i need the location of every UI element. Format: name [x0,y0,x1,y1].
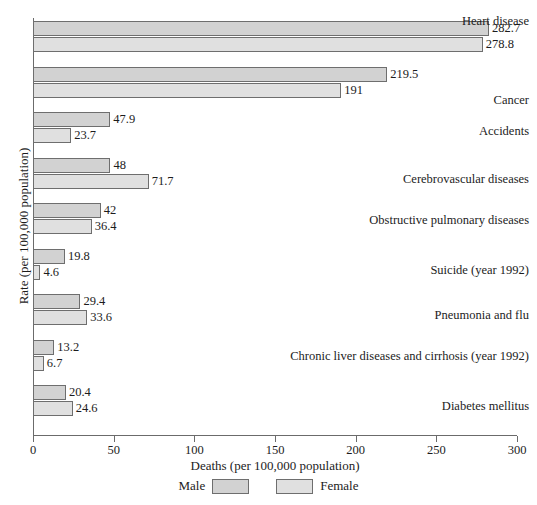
bar-value-label: 24.6 [76,401,98,416]
bar-value-label: 71.7 [152,174,174,189]
category-label: Diabetes mellitus [442,399,529,414]
bar-value-label: 278.8 [486,37,514,52]
bar-chart: 050100150200250300 282.7278.8219.519147.… [0,0,537,505]
category-label: Chronic liver diseases and cirrhosis (ye… [290,349,529,364]
x-axis-tick [275,436,276,442]
chart-legend: Male Female [0,478,537,494]
bar-value-label: 6.7 [47,356,63,371]
x-axis-tick-label: 150 [266,443,285,458]
bar-male [33,249,65,264]
bar-male [33,21,489,36]
bar-value-label: 19.8 [68,249,90,264]
legend-label-female: Female [320,478,358,494]
bar-value-label: 4.6 [43,265,59,280]
x-axis-tick [517,436,518,442]
x-axis-title: Deaths (per 100,000 population) [33,458,517,474]
x-axis-tick-label: 50 [107,443,120,458]
legend-label-male: Male [179,478,206,494]
category-label: Cancer [494,93,529,108]
category-label: Pneumonia and flu [435,308,529,323]
y-axis-title: Rate (per 100,000 population) [16,106,32,346]
bar-value-label: 36.4 [95,219,117,234]
x-axis-tick-label: 300 [508,443,527,458]
x-axis-tick-label: 100 [185,443,204,458]
bar-value-label: 20.4 [69,385,91,400]
bar-value-label: 29.4 [83,294,105,309]
x-axis-tick [114,436,115,442]
legend-swatch-female [276,479,313,494]
bar-male [33,385,66,400]
bar-female [33,219,92,234]
bar-female [33,265,40,280]
bar-value-label: 23.7 [74,128,96,143]
bar-value-label: 13.2 [57,340,79,355]
bar-value-label: 191 [344,83,363,98]
bar-male [33,203,101,218]
category-label: Heart disease [462,14,529,29]
x-axis-tick [356,436,357,442]
bar-value-label: 33.6 [90,310,112,325]
bar-male [33,158,110,173]
x-axis-tick [194,436,195,442]
bar-male [33,294,80,309]
legend-swatch-male [212,479,249,494]
category-label: Accidents [479,124,529,139]
bar-female [33,356,44,371]
x-axis-tick-label: 250 [427,443,446,458]
bar-male [33,67,387,82]
bar-value-label: 47.9 [113,112,135,127]
bar-male [33,112,110,127]
x-axis-tick-label: 0 [30,443,36,458]
bar-female [33,174,149,189]
bar-female [33,83,341,98]
bar-male [33,340,54,355]
x-axis-tick [436,436,437,442]
bar-female [33,310,87,325]
bar-value-label: 48 [113,158,126,173]
bar-female [33,401,73,416]
category-label: Obstructive pulmonary diseases [369,213,529,228]
x-axis-tick [33,436,34,442]
bar-female [33,128,71,143]
category-label: Suicide (year 1992) [430,263,529,278]
bar-value-label: 219.5 [390,67,418,82]
x-axis-tick-label: 200 [346,443,365,458]
bar-value-label: 42 [104,203,117,218]
bar-female [33,37,483,52]
category-label: Cerebrovascular diseases [403,172,529,187]
